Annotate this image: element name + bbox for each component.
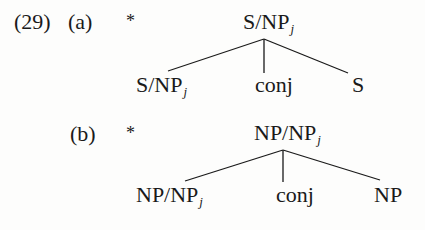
example-a-label: (a) bbox=[68, 11, 92, 33]
tree-a-child-left: S/NPj bbox=[136, 74, 187, 98]
ungrammatical-marker-a: * bbox=[126, 12, 135, 30]
example-b-label: (b) bbox=[70, 123, 96, 145]
tree-a-child-conj: conj bbox=[255, 74, 293, 96]
branch-a-right bbox=[264, 39, 348, 73]
tree-b-child-right: NP bbox=[374, 184, 402, 206]
tree-a-child-right: S bbox=[352, 74, 364, 96]
branch-b-right bbox=[283, 150, 380, 180]
tree-b-child-conj: conj bbox=[276, 184, 314, 206]
ungrammatical-marker-b: * bbox=[126, 124, 135, 142]
tree-b-child-left: NP/NPj bbox=[136, 184, 203, 208]
tree-branches bbox=[0, 0, 425, 230]
branch-b-left bbox=[185, 150, 283, 181]
tree-a-root: S/NPj bbox=[243, 11, 294, 35]
tree-b-root: NP/NPj bbox=[254, 122, 321, 146]
branch-a-left bbox=[168, 39, 264, 71]
example-number: (29) bbox=[14, 11, 51, 33]
